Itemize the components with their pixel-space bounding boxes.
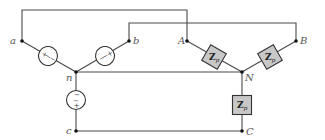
node-C [240,129,244,133]
load-AN: Z p [202,45,227,70]
wire-b-B [129,23,296,41]
impedance-subscript: p [244,104,248,112]
three-phase-circuit-diagram: + ~ − − ~ + − ~ + Z p Z p Z p [0,0,325,140]
source-cn: − ~ + [67,91,86,111]
impedance-subscript: p [216,56,220,64]
wires [22,10,296,131]
label-c: c [66,125,72,136]
source-an: + ~ − [35,43,61,69]
label-A: A [177,35,185,46]
node-B [294,39,298,43]
label-B: B [299,35,307,46]
node-A [185,39,189,43]
load-CN: Z p [233,96,252,115]
label-C: C [246,126,254,137]
source-plus-sign: + [74,102,80,110]
node-n [74,70,78,74]
source-bn: − ~ + [92,43,118,69]
node-b [127,39,131,43]
node-N [240,70,244,74]
node-a [20,39,24,43]
nodes [20,39,298,133]
node-c [74,129,78,133]
impedance-subscript: p [272,56,276,64]
label-n: n [66,72,72,83]
label-a: a [10,35,16,46]
wire-a-A [22,10,187,41]
label-b: b [133,35,139,46]
label-N: N [244,72,255,83]
load-BN: Z p [258,45,283,70]
